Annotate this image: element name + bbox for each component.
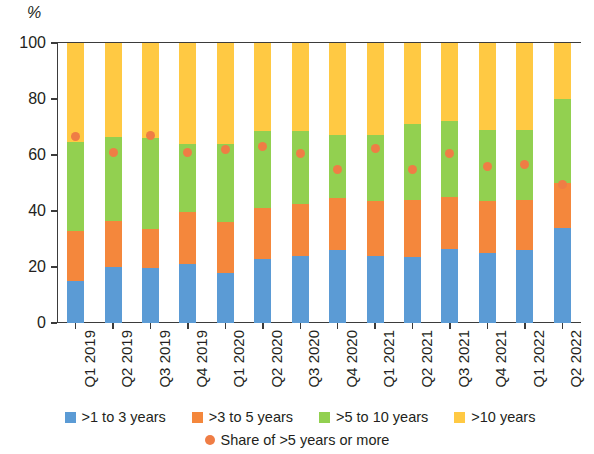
x-axis-tick — [225, 323, 226, 329]
bar-slot — [57, 43, 94, 323]
stacked-bar[interactable] — [292, 43, 309, 323]
bar-segment — [367, 201, 384, 256]
bar-slot — [431, 43, 468, 323]
y-axis-tick-label: 20 — [0, 259, 46, 275]
stacked-bar[interactable] — [179, 43, 196, 323]
legend-item[interactable]: >10 years — [454, 409, 535, 425]
bar-segment — [179, 264, 196, 323]
x-axis-tick — [112, 323, 113, 329]
legend-item[interactable]: Share of >5 years or more — [205, 432, 390, 448]
x-axis-tick — [337, 323, 338, 329]
legend-item[interactable]: >1 to 3 years — [65, 409, 166, 425]
x-axis-tick — [412, 323, 413, 329]
share-marker-dot — [146, 131, 155, 140]
stacked-bar[interactable] — [441, 43, 458, 323]
bar-segment — [142, 138, 159, 229]
stacked-bar[interactable] — [67, 43, 84, 323]
stacked-bar[interactable] — [404, 43, 421, 323]
x-axis-tick-label: Q3 2021 — [456, 330, 472, 402]
y-axis-tick-label: 60 — [0, 147, 46, 163]
bar-segment — [404, 257, 421, 323]
x-axis-tick-label: Q2 2021 — [419, 330, 435, 402]
legend-item[interactable]: >5 to 10 years — [319, 409, 428, 425]
legend-label: Share of >5 years or more — [221, 432, 390, 448]
chart-legend: >1 to 3 years>3 to 5 years>5 to 10 years… — [0, 409, 594, 448]
bar-segment — [217, 273, 234, 323]
bar-segment — [292, 256, 309, 323]
x-axis-tick-label: Q2 2020 — [269, 330, 285, 402]
bar-segment — [142, 43, 159, 138]
x-axis-tick-label: Q3 2019 — [157, 330, 173, 402]
bar-segment — [367, 256, 384, 323]
legend-swatch-icon — [192, 412, 203, 423]
y-axis-tick-label: 80 — [0, 91, 46, 107]
x-axis-tick — [524, 323, 525, 329]
stacked-bar[interactable] — [254, 43, 271, 323]
x-axis-tick-label: Q1 2021 — [381, 330, 397, 402]
bar-slot — [543, 43, 580, 323]
bar-segment — [479, 253, 496, 323]
x-axis-labels: Q1 2019Q2 2019Q3 2019Q4 2019Q1 2020Q2 20… — [57, 330, 581, 402]
bar-segment — [367, 43, 384, 135]
legend-item[interactable]: >3 to 5 years — [192, 409, 293, 425]
stacked-bar[interactable] — [142, 43, 159, 323]
legend-swatch-icon — [65, 412, 76, 423]
share-marker-dot — [109, 148, 118, 157]
bar-segment — [441, 43, 458, 121]
x-axis-tick — [374, 323, 375, 329]
legend-label: >5 to 10 years — [336, 409, 428, 425]
legend-label: >1 to 3 years — [82, 409, 166, 425]
bar-slot — [169, 43, 206, 323]
bar-segment — [516, 250, 533, 323]
share-marker-dot — [408, 165, 417, 174]
x-axis-tick-label: Q1 2022 — [531, 330, 547, 402]
bar-segment — [404, 124, 421, 200]
legend-row-marker: Share of >5 years or more — [0, 432, 594, 448]
stacked-bar[interactable] — [217, 43, 234, 323]
legend-label: >10 years — [471, 409, 535, 425]
x-axis-tick-label: Q1 2020 — [231, 330, 247, 402]
bar-segment — [292, 204, 309, 256]
share-marker-dot — [483, 162, 492, 171]
stacked-bar[interactable] — [479, 43, 496, 323]
bar-segment — [554, 228, 571, 323]
stacked-bar[interactable] — [554, 43, 571, 323]
x-axis-tick-label: Q4 2021 — [493, 330, 509, 402]
bar-slot — [244, 43, 281, 323]
stacked-bar[interactable] — [329, 43, 346, 323]
bar-slot — [506, 43, 543, 323]
bar-slot — [132, 43, 169, 323]
bar-segment — [67, 231, 84, 281]
bar-segment — [217, 43, 234, 144]
bar-slot — [282, 43, 319, 323]
x-axis-tick-label: Q4 2019 — [194, 330, 210, 402]
x-axis-tick-label: Q1 2019 — [82, 330, 98, 402]
bar-segment — [404, 43, 421, 124]
legend-swatch-icon — [454, 412, 465, 423]
y-axis-tick-label: 40 — [0, 203, 46, 219]
bar-slot — [94, 43, 131, 323]
bar-segment — [441, 121, 458, 197]
bar-segment — [67, 43, 84, 142]
x-axis-tick — [262, 323, 263, 329]
x-axis-tick — [487, 323, 488, 329]
bar-segment — [516, 200, 533, 250]
stacked-bar[interactable] — [105, 43, 122, 323]
bar-segment — [554, 43, 571, 99]
x-axis-tick — [449, 323, 450, 329]
x-axis-tick-label: Q2 2019 — [119, 330, 135, 402]
x-axis-tick — [187, 323, 188, 329]
x-axis-tick — [562, 323, 563, 329]
share-marker-dot — [371, 144, 380, 153]
stacked-bar[interactable] — [516, 43, 533, 323]
bar-segment — [329, 43, 346, 135]
bar-segment — [105, 267, 122, 323]
stacked-bar[interactable] — [367, 43, 384, 323]
bar-segment — [292, 43, 309, 131]
bar-segment — [217, 222, 234, 272]
bar-segment — [67, 142, 84, 230]
bar-segment — [217, 144, 234, 222]
x-axis-ticks — [57, 323, 581, 330]
x-axis-tick-label: Q3 2020 — [306, 330, 322, 402]
bar-segment — [105, 221, 122, 267]
